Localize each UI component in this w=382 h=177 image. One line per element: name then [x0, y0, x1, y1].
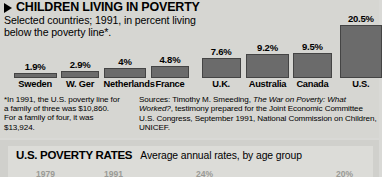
headline-row: CHILDREN LIVING IN POVERTY: [4, 1, 200, 14]
bar-value-label: 7.6%: [202, 47, 241, 57]
bar-column-sweden: 1.9%Sweden: [14, 62, 57, 90]
children-in-poverty-panel: CHILDREN LIVING IN POVERTY Selected coun…: [0, 0, 379, 138]
bar-rect: [151, 66, 190, 78]
poverty-bar-chart: 1.9%Sweden2.9%W. Ger4%Netherlands4.8%Fra…: [0, 14, 379, 90]
bar-column-netherlands: 4%Netherlands: [104, 57, 147, 90]
clipped-label: 24%: [196, 169, 213, 177]
bar-value-label: 4.8%: [151, 55, 190, 65]
bar-category-label: Australia: [246, 79, 289, 90]
bar-rect: [104, 68, 147, 78]
sources-label: Sources:: [139, 95, 170, 104]
bar-column-australia: 9.2%Australia: [246, 43, 289, 90]
clipped-labels-row: 1979199124%20%: [0, 169, 379, 177]
sources-part-2: , testimony prepared for the Joint Econo…: [139, 104, 377, 132]
sources-text: Sources: Timothy M. Smeeding, The War on…: [139, 95, 377, 132]
bar-column-canada: 9.5%Canada: [293, 42, 332, 90]
clipped-label: 1979: [36, 169, 55, 177]
bar-category-label: W. Ger: [61, 79, 100, 90]
bar-rect: [340, 25, 381, 78]
bar-rect: [293, 53, 332, 78]
footnote-text: *In 1991, the U.S. poverty line for a fa…: [4, 95, 122, 132]
clipped-label: 1991: [104, 169, 123, 177]
bar-value-label: 9.5%: [293, 42, 332, 52]
bar-category-label: U.S.: [340, 79, 381, 90]
triangle-right-icon: [4, 3, 12, 13]
bar-value-label: 4%: [104, 57, 147, 67]
bar-value-label: 2.9%: [61, 60, 100, 70]
section-subtitle: Average annual rates, by age group: [140, 150, 302, 161]
clipped-label: 20%: [336, 169, 353, 177]
bar-rect: [246, 54, 289, 78]
bar-category-label: U.K.: [202, 79, 241, 90]
bar-value-label: 9.2%: [246, 43, 289, 53]
bar-category-label: Netherlands: [104, 79, 147, 90]
bar-rect: [202, 58, 241, 78]
bar-category-label: France: [151, 79, 190, 90]
bar-column-u-k: 7.6%U.K.: [202, 47, 241, 90]
us-poverty-rates-header: U.S. POVERTY RATES Average annual rates,…: [16, 149, 302, 161]
bar-column-u-s: 20.5%U.S.: [340, 14, 381, 90]
sources-part-1: Timothy M. Smeeding,: [170, 95, 253, 104]
bar-value-label: 20.5%: [340, 14, 381, 24]
bar-value-label: 1.9%: [14, 62, 57, 72]
bar-category-label: Sweden: [14, 79, 57, 90]
section-title: U.S. POVERTY RATES: [16, 149, 132, 161]
bar-rect: [61, 71, 100, 78]
bar-rect: [14, 73, 57, 78]
bar-category-label: Canada: [293, 79, 332, 90]
page-title: CHILDREN LIVING IN POVERTY: [16, 1, 200, 14]
bar-column-w-ger: 2.9%W. Ger: [61, 60, 100, 90]
bar-column-france: 4.8%France: [151, 55, 190, 90]
